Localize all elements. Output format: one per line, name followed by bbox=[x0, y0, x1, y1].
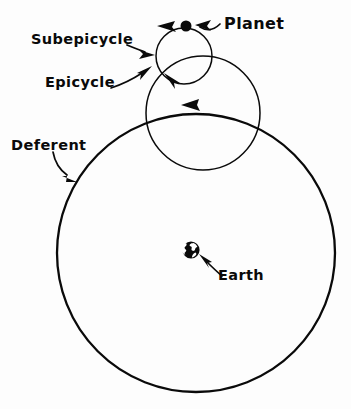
deferent-leader-arrowhead-icon bbox=[62, 176, 77, 182]
planet-label: Planet bbox=[224, 16, 284, 32]
planet-leader-group bbox=[195, 20, 220, 31]
epicycle-leader-group bbox=[111, 66, 152, 88]
deferent-direction-arrowhead-icon bbox=[181, 99, 200, 111]
subepicycle-direction-arrowhead-icon bbox=[157, 21, 176, 32]
planet-dot bbox=[181, 21, 192, 32]
epicycle-orbit-group bbox=[146, 56, 260, 170]
deferent-leader-group bbox=[53, 152, 77, 182]
deferent-label: Deferent bbox=[11, 138, 86, 153]
epicycle-label: Epicycle bbox=[45, 75, 115, 90]
epicycle-leader-line bbox=[111, 73, 142, 88]
subepicycle-leader-arrowhead-icon bbox=[139, 50, 155, 59]
subepicycle-label: Subepicycle bbox=[31, 32, 133, 47]
earth-globe-icon bbox=[181, 241, 199, 258]
epicycle-diagram: Planet Subepicycle Epicycle Deferent Ear… bbox=[0, 0, 351, 409]
epicycle-leader-arrowhead-icon bbox=[137, 66, 152, 80]
subepicycle-leader-group bbox=[127, 45, 155, 59]
diagram-canvas bbox=[0, 0, 351, 409]
deferent-leader-line bbox=[53, 152, 67, 175]
earth-label: Earth bbox=[218, 268, 264, 283]
epicycle-circle bbox=[146, 56, 260, 170]
